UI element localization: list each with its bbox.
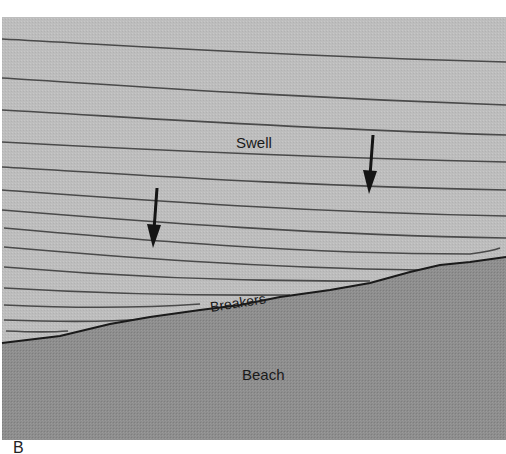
swell-label: Swell: [236, 134, 272, 151]
wave-refraction-diagram: Swell Breakers Beach: [0, 0, 506, 454]
panel-letter: B: [13, 440, 24, 454]
beach-label: Beach: [242, 366, 285, 383]
bottom-margin: [0, 440, 506, 454]
